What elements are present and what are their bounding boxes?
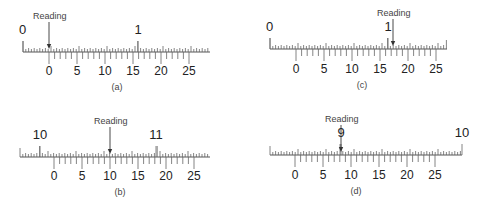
vernier-panel-d: 9100510152025Reading(d) (270, 114, 469, 196)
vernier-label: 5 (321, 62, 328, 76)
panel-caption: (c) (357, 80, 368, 90)
arrow-head-icon (108, 149, 112, 154)
vernier-scale-ticks (54, 157, 194, 169)
vernier-figure: 010510152025Reading(a)10110510152025Read… (0, 0, 490, 213)
vernier-scale-ticks (296, 49, 436, 61)
vernier-label: 15 (372, 168, 386, 182)
main-scale-label: 1 (134, 22, 141, 37)
vernier-label: 10 (344, 168, 358, 182)
vernier-label: 0 (293, 62, 300, 76)
main-scale-label: 10 (455, 125, 469, 140)
vernier-label: 5 (320, 168, 327, 182)
main-scale-ticks (20, 146, 208, 157)
vernier-label: 20 (400, 168, 414, 182)
reading-label: Reading (33, 11, 67, 21)
vernier-label: 25 (429, 62, 443, 76)
main-scale-ticks (23, 41, 208, 52)
vernier-label: 20 (401, 62, 415, 76)
vernier-label: 5 (74, 64, 81, 78)
panel-caption: (b) (115, 187, 126, 197)
panel-caption: (d) (351, 186, 362, 196)
main-scale-ticks (270, 144, 462, 155)
vernier-scale-ticks (49, 52, 189, 64)
vernier-label: 0 (292, 168, 299, 182)
main-scale-label: 1 (384, 19, 391, 34)
vernier-label: 20 (159, 169, 173, 183)
vernier-label: 0 (46, 64, 53, 78)
vernier-label: 15 (373, 62, 387, 76)
vernier-scale-ticks (295, 155, 435, 167)
vernier-label: 25 (187, 169, 201, 183)
vernier-label: 15 (131, 169, 145, 183)
vernier-label: 10 (103, 169, 117, 183)
vernier-panel-b: 10110510152025Reading(b) (20, 116, 210, 197)
vernier-label: 5 (79, 169, 86, 183)
main-scale-label: 10 (33, 127, 47, 142)
vernier-label: 15 (126, 64, 140, 78)
arrow-head-icon (47, 44, 51, 49)
main-scale-label: 0 (19, 22, 26, 37)
main-scale-ticks (270, 38, 446, 49)
vernier-panel-a: 010510152025Reading(a) (19, 11, 210, 92)
reading-label: Reading (325, 114, 359, 124)
main-scale-label: 0 (266, 19, 273, 34)
vernier-panel-c: 010510152025Reading(c) (266, 8, 447, 90)
panel-caption: (a) (112, 82, 123, 92)
vernier-label: 25 (428, 168, 442, 182)
vernier-label: 10 (345, 62, 359, 76)
reading-label: Reading (94, 116, 128, 126)
vernier-label: 25 (182, 64, 196, 78)
vernier-label: 10 (98, 64, 112, 78)
vernier-label: 20 (154, 64, 168, 78)
main-scale-label: 11 (149, 127, 163, 142)
vernier-label: 0 (51, 169, 58, 183)
reading-label: Reading (377, 8, 411, 18)
arrow-head-icon (391, 41, 395, 46)
